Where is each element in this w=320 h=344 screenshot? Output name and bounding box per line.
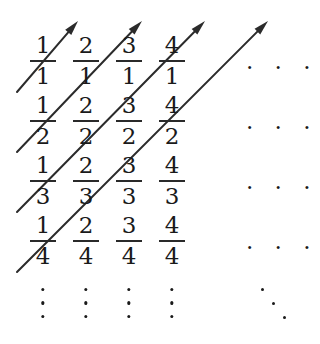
- fraction-bar: [30, 120, 56, 122]
- fraction-numerator: 2: [64, 93, 108, 118]
- fraction-bar: [159, 120, 185, 122]
- fraction-cell: 11: [21, 33, 65, 89]
- ellipsis-dot: [261, 288, 264, 291]
- fraction-denominator: 3: [107, 184, 151, 209]
- fraction-bar: [159, 180, 185, 182]
- fraction-numerator: 1: [21, 93, 65, 118]
- fraction-bar: [73, 240, 99, 242]
- fraction-numerator: 1: [21, 213, 65, 238]
- fraction-cell: 41: [150, 33, 194, 89]
- fraction-numerator: 2: [64, 153, 108, 178]
- fraction-bar: [116, 180, 142, 182]
- ellipsis-dot: [127, 288, 130, 291]
- fraction-denominator: 1: [150, 64, 194, 89]
- ellipsis-dot: [41, 315, 44, 318]
- row-ellipsis: . . .: [246, 50, 318, 73]
- fraction-numerator: 4: [150, 153, 194, 178]
- fraction-numerator: 1: [21, 33, 65, 58]
- ellipsis-dot: [127, 301, 130, 304]
- fraction-numerator: 2: [64, 213, 108, 238]
- row-ellipsis: . . .: [246, 170, 318, 193]
- fraction-cell: 43: [150, 153, 194, 209]
- fraction-bar: [73, 180, 99, 182]
- column-ellipsis: [41, 288, 44, 318]
- fraction-numerator: 3: [107, 33, 151, 58]
- fraction-bar: [73, 120, 99, 122]
- ellipsis-dot: [41, 301, 44, 304]
- fraction-cell: 33: [107, 153, 151, 209]
- column-ellipsis: [84, 288, 87, 318]
- fraction-denominator: 1: [21, 64, 65, 89]
- fraction-cell: 13: [21, 153, 65, 209]
- fraction-bar: [116, 240, 142, 242]
- ellipsis-dot: [84, 315, 87, 318]
- ellipsis-dot: [84, 288, 87, 291]
- fraction-denominator: 1: [107, 64, 151, 89]
- fraction-bar: [30, 240, 56, 242]
- fraction-denominator: 2: [150, 124, 194, 149]
- fraction-cell: 14: [21, 213, 65, 269]
- column-ellipsis: [170, 288, 173, 318]
- fraction-cell: 34: [107, 213, 151, 269]
- fraction-denominator: 4: [64, 244, 108, 269]
- ellipsis-dot: [41, 288, 44, 291]
- fraction-cell: 12: [21, 93, 65, 149]
- fraction-cell: 32: [107, 93, 151, 149]
- fraction-bar: [159, 60, 185, 62]
- ellipsis-dot: [170, 315, 173, 318]
- cantor-diagonal-figure: 11213141122232421323334314243444 . . .. …: [0, 0, 320, 344]
- fraction-bar: [116, 120, 142, 122]
- fraction-bar: [159, 240, 185, 242]
- fraction-cell: 44: [150, 213, 194, 269]
- fraction-denominator: 2: [64, 124, 108, 149]
- fraction-cell: 24: [64, 213, 108, 269]
- fraction-numerator: 4: [150, 33, 194, 58]
- fraction-denominator: 3: [21, 184, 65, 209]
- fraction-cell: 23: [64, 153, 108, 209]
- fraction-denominator: 1: [64, 64, 108, 89]
- fraction-denominator: 2: [107, 124, 151, 149]
- fraction-denominator: 3: [150, 184, 194, 209]
- fraction-bar: [30, 60, 56, 62]
- fraction-numerator: 3: [107, 153, 151, 178]
- row-ellipsis: . . .: [246, 230, 318, 253]
- fraction-denominator: 4: [107, 244, 151, 269]
- fraction-cell: 31: [107, 33, 151, 89]
- fraction-numerator: 4: [150, 213, 194, 238]
- column-ellipsis: [127, 288, 130, 318]
- ellipsis-dot: [84, 301, 87, 304]
- fraction-denominator: 4: [150, 244, 194, 269]
- fraction-numerator: 2: [64, 33, 108, 58]
- fraction-cell: 42: [150, 93, 194, 149]
- fraction-cell: 22: [64, 93, 108, 149]
- fraction-bar: [116, 60, 142, 62]
- fraction-cell: 21: [64, 33, 108, 89]
- fraction-numerator: 3: [107, 93, 151, 118]
- ellipsis-dot: [170, 301, 173, 304]
- fraction-denominator: 2: [21, 124, 65, 149]
- fraction-denominator: 4: [21, 244, 65, 269]
- fraction-bar: [73, 60, 99, 62]
- ellipsis-dot: [170, 288, 173, 291]
- row-ellipsis: . . .: [246, 110, 318, 133]
- fraction-numerator: 3: [107, 213, 151, 238]
- ellipsis-dot: [127, 315, 130, 318]
- ellipsis-dot: [283, 316, 286, 319]
- diagonal-arrow-4-head: [255, 21, 268, 34]
- fraction-bar: [30, 180, 56, 182]
- fraction-numerator: 4: [150, 93, 194, 118]
- fraction-numerator: 1: [21, 153, 65, 178]
- ellipsis-dot: [272, 302, 275, 305]
- fraction-denominator: 3: [64, 184, 108, 209]
